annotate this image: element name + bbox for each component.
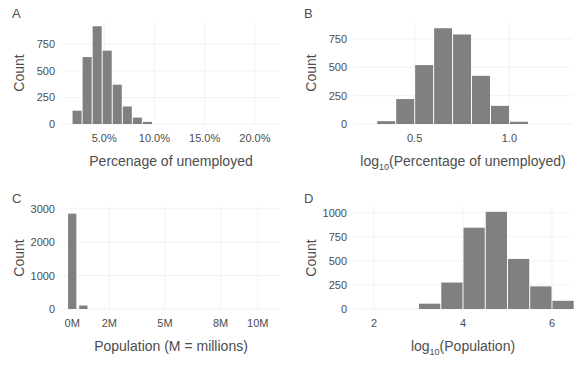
y-tick-label: 0 [341, 118, 347, 130]
panel-a: A02505007505.0%10.0%15.0%20.0%CountPerce… [0, 0, 292, 186]
y-axis-title: Count [11, 239, 27, 276]
histogram-bar [472, 76, 490, 124]
histogram-bar [133, 118, 142, 124]
y-tick-label: 1000 [323, 207, 347, 219]
x-tick-label: 2 [371, 317, 377, 329]
x-tick-label: 10M [247, 317, 268, 329]
y-tick-label: 750 [37, 38, 55, 50]
histogram-bar [486, 212, 507, 309]
y-tick-label: 3000 [31, 203, 55, 215]
y-tick-label: 250 [329, 90, 347, 102]
x-tick-label: 8M [213, 317, 228, 329]
histogram-bar [510, 122, 528, 124]
x-tick-label: 6 [549, 317, 555, 329]
y-tick-label: 500 [329, 61, 347, 73]
panel-letter-c: C [12, 191, 21, 206]
histogram-bar [453, 34, 471, 124]
x-tick-label: 20.0% [239, 132, 270, 144]
y-tick-label: 1000 [31, 270, 55, 282]
histogram-bar [123, 106, 132, 124]
x-axis-title: log10(Population) [411, 338, 515, 357]
histogram-bar [396, 99, 414, 124]
x-tick-label: 10.0% [139, 132, 170, 144]
histogram-bar [103, 51, 112, 124]
x-tick-label: 1.0 [502, 132, 517, 144]
x-tick-label: 0.5 [407, 132, 422, 144]
y-tick-label: 500 [37, 65, 55, 77]
panel-d: D02505007501000246Countlog10(Population) [292, 185, 584, 371]
y-tick-label: 0 [49, 118, 55, 130]
y-tick-label: 750 [329, 33, 347, 45]
histogram-bar [530, 286, 551, 309]
histogram-bar [491, 106, 509, 124]
histogram-bar [79, 305, 87, 309]
histogram-bar [143, 122, 152, 124]
y-tick-label: 500 [329, 255, 347, 267]
x-tick-label: 15.0% [189, 132, 220, 144]
x-tick-label: 2M [102, 317, 117, 329]
y-axis-title: Count [11, 54, 27, 91]
histogram-bar [113, 85, 122, 124]
x-axis-title: Percenage of unemployed [89, 153, 252, 169]
histogram-bar [441, 283, 462, 309]
histogram-bar [83, 57, 92, 124]
histogram-bar [508, 259, 529, 309]
y-tick-label: 2000 [31, 236, 55, 248]
x-tick-label: 0M [65, 317, 80, 329]
y-tick-label: 0 [341, 303, 347, 315]
histogram-bar [73, 111, 82, 124]
histogram-bar [552, 301, 573, 309]
panel-letter-b: B [304, 6, 313, 21]
histogram-bar [415, 65, 433, 124]
y-axis-title: Count [303, 239, 319, 276]
x-axis-title: log10(Percentage of unemployed) [360, 153, 565, 172]
figure-container: A02505007505.0%10.0%15.0%20.0%CountPerce… [0, 0, 584, 371]
histogram-bar [464, 228, 485, 309]
panel-letter-d: D [304, 191, 313, 206]
histogram-bar [377, 121, 395, 124]
x-tick-label: 4 [460, 317, 466, 329]
histogram-bar [434, 28, 452, 124]
histogram-bar [68, 214, 76, 309]
panel-letter-a: A [12, 6, 21, 21]
y-axis-title: Count [303, 54, 319, 91]
panel-c: C01000200030000M2M5M8M10MCountPopulation… [0, 185, 292, 371]
y-tick-label: 750 [329, 231, 347, 243]
x-tick-label: 5.0% [92, 132, 117, 144]
y-tick-label: 250 [329, 279, 347, 291]
panel-b: B02505007500.51.0Countlog10(Percentage o… [292, 0, 584, 186]
histogram-bar [93, 26, 102, 124]
y-tick-label: 250 [37, 91, 55, 103]
y-tick-label: 0 [49, 303, 55, 315]
histogram-bar [419, 304, 440, 309]
x-tick-label: 5M [157, 317, 172, 329]
x-axis-title: Population (M = millions) [94, 338, 248, 354]
